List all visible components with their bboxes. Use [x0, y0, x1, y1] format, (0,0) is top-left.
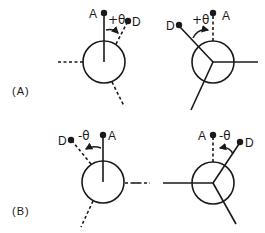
atom-d-dot	[125, 18, 131, 24]
back-bond-d	[73, 142, 91, 164]
atom-d-dot	[237, 139, 243, 145]
back-bond-lower-right	[112, 82, 124, 106]
atom-a-dot	[210, 10, 216, 16]
atom-d-label: D	[245, 136, 254, 150]
atom-a-dot	[210, 132, 216, 138]
atom-a-dot	[101, 10, 107, 16]
atom-d-label: D	[58, 134, 67, 148]
back-bond-lower-left	[81, 201, 93, 227]
atom-d-dot	[68, 137, 74, 143]
rotation-arrow-icon	[193, 30, 208, 38]
rotation-arrow-icon	[220, 148, 233, 154]
atom-a-label: A	[89, 7, 97, 21]
newman-diagram: (A) (B) A D +θ A D +θ	[0, 0, 265, 233]
atom-d-label: D	[166, 19, 175, 33]
atom-d-label: D	[132, 15, 141, 29]
atom-a-label: A	[198, 129, 206, 143]
angle-label: +θ	[108, 13, 125, 27]
atom-d-dot	[176, 22, 182, 28]
atom-a-dot	[100, 132, 106, 138]
angle-label: -θ	[219, 129, 231, 143]
projection-b-right: A D -θ	[133, 129, 254, 224]
projection-a-right: A D +θ	[166, 9, 258, 110]
atom-a-label: A	[108, 129, 116, 143]
projection-b-left: A D -θ	[58, 129, 140, 227]
panel-label-a: (A)	[12, 85, 30, 97]
panel-label-b: (B)	[12, 205, 30, 217]
rotation-arrow-icon	[86, 147, 101, 149]
angle-label: +θ	[192, 13, 209, 27]
atom-a-label: A	[222, 9, 230, 23]
rotation-arrow-icon	[106, 29, 118, 33]
projection-a-left: A D +θ	[58, 7, 141, 106]
angle-label: -θ	[78, 129, 90, 143]
